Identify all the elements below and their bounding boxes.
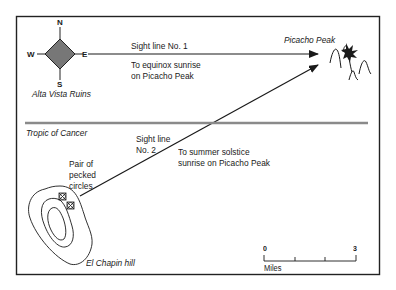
- picacho-peak-label: Picacho Peak: [284, 34, 335, 45]
- scale-max-label: 3: [353, 243, 357, 254]
- sight-line-1-desc-1: To equinox sunrise: [131, 59, 201, 70]
- el-chapin-hill-label: El Chapin hill: [86, 257, 135, 268]
- sight-line-1-label: Sight line No. 1: [131, 40, 188, 51]
- sight-line-1-desc-2: on Picacho Peak: [131, 70, 194, 81]
- compass-west-label: W: [27, 50, 35, 59]
- sunburst-icon: [341, 43, 358, 62]
- tropic-of-cancer-label: Tropic of Cancer: [26, 127, 87, 138]
- marker-label-2: pecked: [69, 169, 96, 180]
- compass-north-label: N: [57, 18, 63, 27]
- marker-label-3: circles: [69, 180, 93, 191]
- compass-east-label: E: [82, 50, 87, 59]
- sight-line-2-label-1: Sight line: [136, 133, 170, 144]
- marker-label-1: Pair of: [69, 158, 93, 169]
- compass-rose-icon: [37, 27, 83, 80]
- sight-line-2-desc-1: To summer solstice: [178, 146, 250, 157]
- scale-unit-label: Miles: [264, 263, 281, 274]
- alta-vista-ruins-label: Alta Vista Ruins: [32, 88, 91, 99]
- sight-line-diagram: N S W E Alta Vista Ruins Picacho Peak Si…: [0, 0, 396, 290]
- scale-min-label: 0: [263, 243, 267, 254]
- sight-line-2-label-2: No. 2: [136, 144, 156, 155]
- hill-contours: [29, 186, 93, 265]
- sight-line-2-desc-2: sunrise on Picacho Peak: [178, 157, 270, 168]
- scale-bar: [264, 255, 356, 261]
- sight-line-2: [80, 65, 318, 196]
